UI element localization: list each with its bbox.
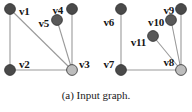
node-label-v10: v10 — [0, 17, 164, 28]
graph-node-v8 — [176, 65, 187, 76]
graph-node-v10 — [166, 15, 177, 26]
input-graph-figure: v1v2v3v4v5v6v7v8v9v10v11 (a) Input graph… — [0, 0, 192, 112]
graph-node-v9 — [176, 4, 187, 15]
figure-caption: (a) Input graph. — [0, 88, 192, 102]
graph-node-v11 — [148, 31, 159, 42]
node-label-v11: v11 — [0, 37, 146, 48]
node-label-v9: v9 — [0, 5, 174, 16]
node-label-v8: v8 — [0, 57, 174, 68]
